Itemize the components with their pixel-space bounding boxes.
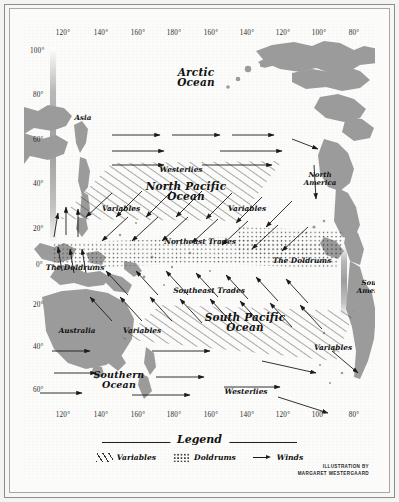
map-graphic (24, 21, 375, 478)
wind-label-variables-nw: Variables (102, 204, 140, 213)
lon-top-8: 80° (349, 29, 360, 37)
legend-item-variables-label: Variables (117, 453, 156, 462)
lon-top-7: 100° (312, 29, 326, 37)
lon-bottom-2: 160° (131, 411, 145, 419)
winds-arrow-swatch (253, 453, 273, 462)
ocean-label-southern: Southern Ocean (94, 370, 145, 390)
wind-label-westerlies-south: Westerlies (224, 387, 267, 396)
lat-left-7: 40° (33, 343, 44, 351)
lat-left-4: 20° (33, 225, 44, 233)
wind-label-northeast-trades: Northeast Trades (164, 237, 236, 246)
wind-label-doldrums-west: The Doldrums (46, 263, 105, 272)
lon-top-1: 140° (94, 29, 108, 37)
lon-bottom-7: 100° (312, 411, 326, 419)
variables-hatch-swatch (96, 453, 113, 462)
lon-bottom-6: 120° (276, 411, 290, 419)
legend-items: Variables Doldrums Winds (24, 453, 375, 462)
illustration-credit-line2: Margaret Westergaard (298, 471, 369, 478)
lat-left-3: 40° (33, 180, 44, 188)
inner-frame-border: 120° 140° 160° 180° 160° 140° 120° 100° … (9, 8, 390, 493)
wind-label-westerlies-north: Westerlies (159, 165, 202, 174)
lon-top-0: 120° (56, 29, 70, 37)
legend-title: Legend (170, 433, 229, 446)
continent-label-south-america-line2: America (357, 287, 375, 295)
wind-arrows-westerlies-north (112, 135, 282, 165)
wind-label-variables-sw: Variables (123, 326, 161, 335)
legend-item-doldrums: Doldrums (173, 453, 236, 462)
lat-left-8: 60° (33, 386, 44, 394)
continent-label-australia: Australia (59, 326, 96, 335)
lat-left-2: 60° (33, 136, 44, 144)
lon-bottom-1: 140° (94, 411, 108, 419)
wind-label-doldrums-east: The Doldrums (273, 256, 332, 265)
lon-bottom-8: 80° (349, 411, 360, 419)
lon-top-5: 140° (240, 29, 254, 37)
lon-top-4: 160° (204, 29, 218, 37)
ocean-label-south-pacific-line2: Ocean (205, 322, 286, 332)
lat-left-0: 100° (30, 47, 44, 55)
wind-label-southeast-trades: Southeast Trades (173, 286, 245, 295)
legend-item-winds-label: Winds (277, 453, 303, 462)
wind-arrows-north-east-edge (292, 139, 318, 199)
legend-item-winds: Winds (253, 453, 303, 462)
lon-bottom-3: 180° (167, 411, 181, 419)
lon-top-3: 180° (167, 29, 181, 37)
ocean-label-north-pacific: North Pacific Ocean (146, 181, 227, 201)
map-plate: 120° 140° 160° 180° 160° 140° 120° 100° … (24, 21, 375, 478)
lon-bottom-0: 120° (56, 411, 70, 419)
ocean-label-south-pacific: South Pacific Ocean (205, 312, 286, 332)
continent-label-north-america: North America (304, 171, 336, 187)
lat-left-6: 20° (33, 301, 44, 309)
lat-left-1: 80° (33, 91, 44, 99)
lon-bottom-4: 160° (204, 411, 218, 419)
lon-top-6: 120° (276, 29, 290, 37)
wind-label-variables-se: Variables (314, 343, 352, 352)
continent-label-north-america-line2: America (304, 179, 336, 187)
lon-bottom-5: 140° (240, 411, 254, 419)
ocean-label-north-pacific-line2: Ocean (146, 191, 227, 201)
legend-item-doldrums-label: Doldrums (194, 453, 236, 462)
ocean-label-arctic-line2: Ocean (177, 77, 215, 87)
legend-item-variables: Variables (96, 453, 156, 462)
continent-label-south-america: South America (357, 279, 375, 295)
wind-label-variables-ne: Variables (228, 204, 266, 213)
lat-left-5: 0° (36, 261, 43, 269)
illustration-credit: Illustration by Margaret Westergaard (298, 464, 369, 477)
ocean-label-southern-line2: Ocean (94, 380, 145, 390)
doldrums-dots-swatch (173, 453, 190, 462)
illustration-credit-line1: Illustration by (298, 464, 369, 471)
lon-top-2: 160° (131, 29, 145, 37)
map-page: 120° 140° 160° 180° 160° 140° 120° 100° … (0, 0, 399, 502)
ocean-label-arctic: Arctic Ocean (177, 67, 215, 87)
continent-label-asia: Asia (74, 113, 91, 122)
